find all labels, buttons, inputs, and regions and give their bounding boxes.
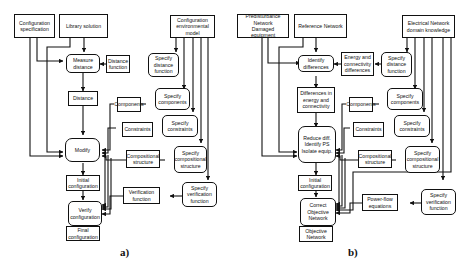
- specify-components-b-process: Specify components: [387, 88, 423, 110]
- electrical-network-knowledge-box: Electrical Network domain knowledge: [402, 15, 455, 38]
- constraints-box: Constraints: [122, 122, 153, 137]
- final-configuration-box: Final configuration: [66, 226, 100, 241]
- library-solution-box: Library solution: [59, 14, 108, 38]
- panel-a-label: a): [120, 246, 129, 258]
- reference-network-box: Reference Network: [294, 14, 347, 38]
- panel-b-label: b): [348, 246, 358, 258]
- specify-constraints-process: Specify constraints: [162, 115, 198, 137]
- specify-compositional-structure-process: Specify compositional structure: [174, 146, 207, 173]
- specify-distance-function-b-process: Specify distance function: [381, 52, 412, 77]
- identify-differences-process: Identify differences: [298, 55, 334, 72]
- specify-verification-function-process: Specify verification function: [182, 182, 217, 207]
- objective-network-box: Objective Network: [299, 226, 333, 242]
- reduce-differences-process: Reduce diff. Identify PS Isolate equip.: [298, 126, 336, 163]
- specify-compositional-structure-b-process: Specify compositional structure: [405, 146, 440, 173]
- initial-configuration-b-box: Initial configuration: [298, 175, 332, 191]
- compositional-structure-b-box: Compositional structure: [358, 150, 392, 168]
- components-b-box: Components: [349, 97, 373, 112]
- constraints-b-box: Constraints: [353, 122, 384, 137]
- config-environmental-model-box: Configuration environmental model: [170, 15, 215, 38]
- config-specification-box: Configuration specification: [14, 14, 55, 38]
- components-box: Components: [117, 97, 141, 112]
- specify-constraints-b-process: Specify constraints: [394, 115, 430, 137]
- specify-distance-function-process: Specify distance function: [148, 53, 179, 77]
- energy-connectivity-differences-box: Energy and connectivity differences: [341, 52, 374, 76]
- figure-canvas: Configuration specification Library solu…: [0, 0, 471, 271]
- specify-verification-function-b-process: Specify verification function: [421, 189, 456, 215]
- differences-energy-connectivity-box: Differences in energy and connectivity: [297, 87, 335, 113]
- distance-function-box: Distance function: [106, 55, 130, 73]
- verification-function-box: Verification function: [123, 187, 160, 204]
- distance-box: Distance: [68, 91, 98, 106]
- correct-objective-network-process: Correct Objective Network: [300, 198, 336, 226]
- initial-configuration-box: Initial configuration: [66, 175, 100, 191]
- compositional-structure-box: Compositional structure: [126, 150, 160, 168]
- specify-components-process: Specify components: [155, 88, 190, 110]
- verify-configuration-process: Verify configuration: [68, 201, 102, 226]
- modify-process: Modify: [65, 138, 100, 162]
- power-flow-equations-box: Power-flow equations: [362, 194, 398, 211]
- predisturbance-network-box: Predisturbance Network Damaged equipment: [237, 14, 289, 38]
- measure-distance-process: Measure distance: [66, 54, 100, 73]
